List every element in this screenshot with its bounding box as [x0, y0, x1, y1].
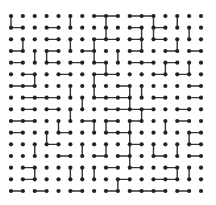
grid-dot[interactable] [116, 84, 120, 88]
grid-dot[interactable] [33, 131, 37, 135]
grid-dot[interactable] [80, 166, 84, 170]
grid-dot[interactable] [68, 49, 72, 53]
grid-dot[interactable] [33, 26, 37, 30]
grid-dot[interactable] [92, 177, 96, 181]
grid-dot[interactable] [56, 177, 60, 181]
grid-dot[interactable] [21, 84, 25, 88]
grid-dot[interactable] [163, 84, 167, 88]
grid-dot[interactable] [45, 96, 49, 100]
grid-dot[interactable] [92, 131, 96, 135]
grid-dot[interactable] [21, 166, 25, 170]
grid-dot[interactable] [80, 177, 84, 181]
grid-dot[interactable] [116, 96, 120, 100]
grid-dot[interactable] [45, 84, 49, 88]
grid-dot[interactable] [163, 107, 167, 111]
grid-dot[interactable] [163, 166, 167, 170]
grid-dot[interactable] [92, 84, 96, 88]
grid-dot[interactable] [21, 37, 25, 41]
grid-dot[interactable] [175, 107, 179, 111]
grid-dot[interactable] [175, 154, 179, 158]
grid-dot[interactable] [104, 166, 108, 170]
grid-dot[interactable] [175, 119, 179, 123]
grid-dot[interactable] [21, 96, 25, 100]
grid-dot[interactable] [116, 166, 120, 170]
grid-dot[interactable] [128, 119, 132, 123]
grid-dot[interactable] [151, 26, 155, 30]
grid-dot[interactable] [68, 72, 72, 76]
grid-dot[interactable] [104, 14, 108, 18]
grid-dot[interactable] [187, 72, 191, 76]
grid-dot[interactable] [187, 61, 191, 65]
grid-dot[interactable] [187, 154, 191, 158]
grid-dot[interactable] [68, 154, 72, 158]
grid-dot[interactable] [175, 131, 179, 135]
grid-dot[interactable] [187, 119, 191, 123]
grid-dot[interactable] [116, 119, 120, 123]
grid-dot[interactable] [151, 154, 155, 158]
grid-dot[interactable] [68, 84, 72, 88]
grid-dot[interactable] [33, 154, 37, 158]
grid-dot[interactable] [175, 72, 179, 76]
grid-dot[interactable] [128, 107, 132, 111]
grid-dot[interactable] [92, 61, 96, 65]
grid-dot[interactable] [92, 142, 96, 146]
grid-dot[interactable] [140, 131, 144, 135]
grid-dot[interactable] [104, 107, 108, 111]
grid-dot[interactable] [199, 84, 203, 88]
grid-dot[interactable] [104, 84, 108, 88]
grid-dot[interactable] [45, 26, 49, 30]
grid-dot[interactable] [56, 96, 60, 100]
grid-dot[interactable] [199, 61, 203, 65]
grid-dot[interactable] [9, 131, 13, 135]
grid-dot[interactable] [128, 84, 132, 88]
grid-dot[interactable] [199, 166, 203, 170]
grid-dot[interactable] [163, 189, 167, 193]
grid-dot[interactable] [33, 119, 37, 123]
grid-dot[interactable] [56, 14, 60, 18]
grid-dot[interactable] [9, 119, 13, 123]
grid-dot[interactable] [80, 189, 84, 193]
grid-dot[interactable] [187, 107, 191, 111]
grid-dot[interactable] [104, 26, 108, 30]
grid-dot[interactable] [140, 14, 144, 18]
grid-dot[interactable] [45, 14, 49, 18]
grid-dot[interactable] [175, 142, 179, 146]
grid-dot[interactable] [21, 72, 25, 76]
grid-dot[interactable] [199, 189, 203, 193]
grid-dot[interactable] [175, 26, 179, 30]
grid-dot[interactable] [199, 49, 203, 53]
grid-dot[interactable] [56, 26, 60, 30]
grid-dot[interactable] [187, 96, 191, 100]
grid-dot[interactable] [9, 177, 13, 181]
grid-dot[interactable] [56, 37, 60, 41]
grid-dot[interactable] [33, 72, 37, 76]
grid-dot[interactable] [68, 189, 72, 193]
grid-dot[interactable] [187, 14, 191, 18]
grid-dot[interactable] [21, 119, 25, 123]
grid-dot[interactable] [21, 131, 25, 135]
grid-dot[interactable] [128, 142, 132, 146]
grid-dot[interactable] [45, 154, 49, 158]
grid-dot[interactable] [92, 96, 96, 100]
grid-dot[interactable] [21, 49, 25, 53]
grid-dot[interactable] [33, 61, 37, 65]
grid-dot[interactable] [33, 166, 37, 170]
grid-dot[interactable] [45, 107, 49, 111]
grid-dot[interactable] [56, 154, 60, 158]
grid-dot[interactable] [151, 37, 155, 41]
grid-dot[interactable] [151, 131, 155, 135]
grid-dot[interactable] [92, 26, 96, 30]
grid-dot[interactable] [92, 166, 96, 170]
grid-dot[interactable] [187, 142, 191, 146]
grid-dot[interactable] [187, 37, 191, 41]
grid-dot[interactable] [33, 142, 37, 146]
grid-dot[interactable] [128, 96, 132, 100]
grid-dot[interactable] [199, 142, 203, 146]
grid-dot[interactable] [128, 166, 132, 170]
grid-dot[interactable] [104, 49, 108, 53]
grid-dot[interactable] [151, 166, 155, 170]
grid-dot[interactable] [151, 119, 155, 123]
grid-dot[interactable] [56, 131, 60, 135]
grid-dot[interactable] [128, 49, 132, 53]
grid-dot[interactable] [56, 61, 60, 65]
